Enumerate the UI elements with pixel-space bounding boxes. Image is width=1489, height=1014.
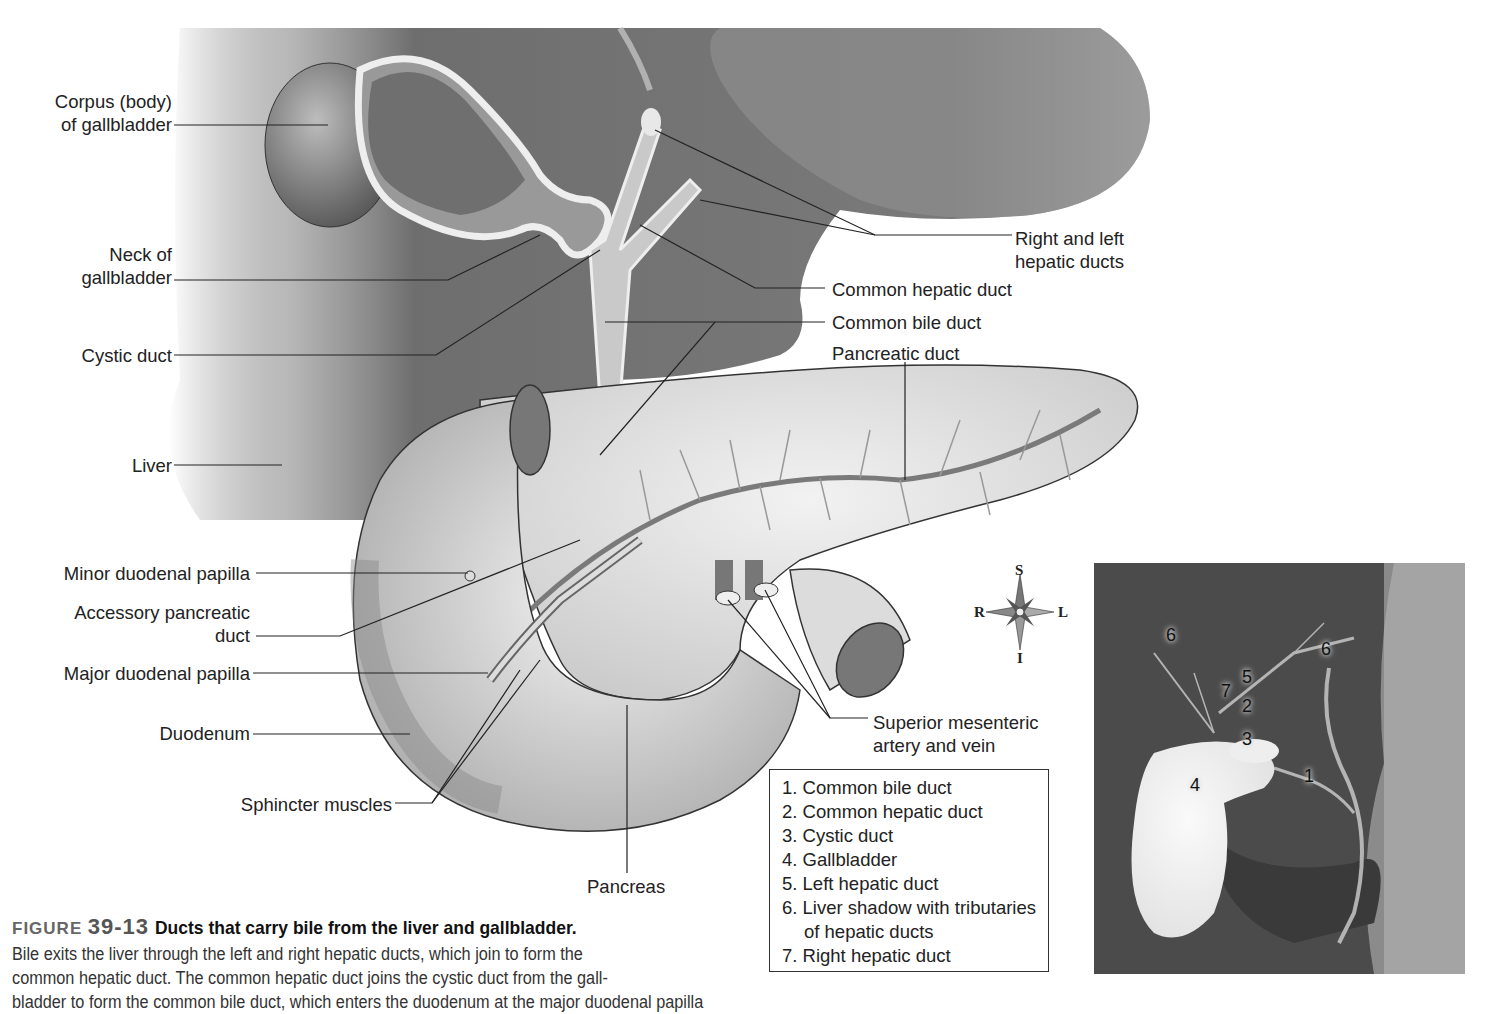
label-accessory-duct: Accessory pancreatic duct — [74, 601, 250, 647]
legend-item: 1. Common bile duct — [782, 776, 1048, 800]
xray-marker-6b: 6 — [1321, 639, 1331, 660]
compass-superior: S — [1015, 562, 1023, 579]
label-hepatic-ducts: Right and left hepatic ducts — [1015, 227, 1124, 273]
label-neck: Neck of gallbladder — [81, 243, 172, 289]
label-duodenum: Duodenum — [159, 722, 250, 745]
xray-marker-6a: 6 — [1166, 625, 1176, 646]
label-sma: Superior mesenteric artery and vein — [873, 711, 1039, 757]
figure-number: 39-13 — [88, 914, 149, 939]
legend-item: 3. Cystic duct — [782, 824, 1048, 848]
compass-left: L — [1058, 604, 1068, 621]
figure-prefix: FIGURE — [12, 919, 82, 938]
legend-item: 5. Left hepatic duct — [782, 872, 1048, 896]
duodenum-opening — [510, 385, 550, 475]
compass-right: R — [974, 604, 985, 621]
compass-inferior: I — [1017, 650, 1023, 667]
xray-image — [1094, 563, 1465, 974]
xray-marker-5: 5 — [1242, 667, 1252, 688]
caption-line: Bile exits the liver through the left an… — [12, 942, 700, 966]
xray-marker-7: 7 — [1221, 681, 1231, 702]
figure-caption: FIGURE 39-13 Ducts that carry bile from … — [12, 914, 752, 1014]
label-cystic-duct: Cystic duct — [82, 344, 172, 367]
caption-line: bladder to form the common bile duct, wh… — [12, 990, 700, 1014]
legend-item: 2. Common hepatic duct — [782, 800, 1048, 824]
legend-item: 4. Gallbladder — [782, 848, 1048, 872]
xray-marker-3: 3 — [1242, 729, 1252, 750]
cholangiogram-xray: 6 6 5 7 2 3 4 1 — [1094, 563, 1465, 974]
legend-item: 6. Liver shadow with tributaries of hepa… — [782, 896, 1048, 944]
label-pancreas: Pancreas — [587, 875, 665, 898]
label-minor-papilla: Minor duodenal papilla — [64, 562, 250, 585]
caption-title: FIGURE 39-13 Ducts that carry bile from … — [12, 914, 752, 942]
label-corpus: Corpus (body) of gallbladder — [55, 90, 172, 136]
label-common-hepatic-duct: Common hepatic duct — [832, 278, 1012, 301]
xray-marker-1: 1 — [1304, 766, 1314, 787]
label-liver: Liver — [132, 454, 172, 477]
legend-item: 7. Right hepatic duct — [782, 944, 1048, 968]
pancreas-shape — [480, 365, 1138, 700]
label-major-papilla: Major duodenal papilla — [64, 662, 250, 685]
label-sphincter: Sphincter muscles — [241, 793, 392, 816]
xray-marker-4: 4 — [1190, 775, 1200, 796]
xray-marker-2: 2 — [1242, 696, 1252, 717]
figure-title: Ducts that carry bile from the liver and… — [155, 915, 577, 941]
caption-line: common hepatic duct. The common hepatic … — [12, 966, 700, 990]
xray-legend: 1. Common bile duct 2. Common hepatic du… — [769, 769, 1049, 972]
label-pancreatic-duct: Pancreatic duct — [832, 342, 960, 365]
compass-rose — [986, 574, 1054, 650]
label-common-bile-duct: Common bile duct — [832, 311, 981, 334]
